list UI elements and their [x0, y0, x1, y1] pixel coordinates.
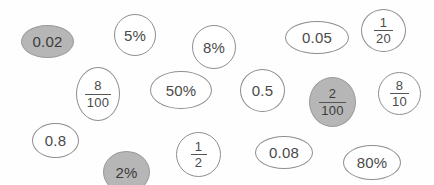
bubble-0-05-label: 0.05 — [302, 30, 332, 45]
bubble-8-percent-label: 8% — [203, 40, 225, 55]
bubble-2-over-100-denominator: 100 — [319, 103, 345, 117]
bubble-1-over-2-denominator: 2 — [193, 155, 204, 169]
bubble-1-over-2[interactable]: 12 — [176, 132, 221, 177]
bubble-0-02-label: 0.02 — [33, 34, 63, 49]
bubble-2-percent[interactable]: 2% — [103, 151, 150, 185]
bubble-1-over-20-denominator: 20 — [374, 31, 393, 45]
bubble-1-over-2-numerator: 1 — [193, 140, 204, 154]
bubble-8-over-10[interactable]: 810 — [378, 72, 421, 115]
bubble-80-percent-label: 80% — [357, 155, 388, 170]
bubble-0-02[interactable]: 0.02 — [21, 25, 74, 58]
bubble-0-8-label: 0.8 — [45, 133, 66, 148]
bubble-1-over-2-fraction: 12 — [191, 140, 207, 170]
bubble-0-8[interactable]: 0.8 — [32, 123, 79, 158]
bubble-5-percent-label: 5% — [124, 28, 146, 43]
bubble-8-over-10-denominator: 10 — [390, 94, 409, 108]
bubble-80-percent[interactable]: 80% — [343, 145, 401, 180]
bubble-8-over-100-fraction: 8100 — [85, 79, 111, 109]
bubble-0-05[interactable]: 0.05 — [285, 21, 349, 54]
bubble-8-over-10-numerator: 8 — [394, 79, 405, 93]
bubble-0-5[interactable]: 0.5 — [240, 69, 285, 112]
bubble-0-5-label: 0.5 — [252, 83, 273, 98]
bubble-8-percent[interactable]: 8% — [192, 25, 236, 69]
bubble-8-over-100[interactable]: 8100 — [76, 67, 120, 121]
bubble-1-over-20[interactable]: 120 — [361, 9, 406, 52]
bubble-5-percent[interactable]: 5% — [114, 14, 156, 56]
bubble-1-over-20-fraction: 120 — [374, 16, 393, 46]
bubble-8-over-100-denominator: 100 — [85, 95, 111, 109]
bubble-8-over-10-fraction: 810 — [390, 79, 409, 109]
bubble-2-over-100-fraction: 2100 — [319, 87, 345, 117]
bubble-2-over-100[interactable]: 2100 — [309, 77, 356, 127]
bubble-8-over-100-numerator: 8 — [92, 79, 103, 93]
bubble-50-percent-label: 50% — [166, 83, 197, 98]
bubble-2-percent-label: 2% — [115, 165, 137, 180]
bubble-sort-canvas: 0.025%8%0.05120810050%0.521008100.82%120… — [0, 0, 434, 185]
bubble-1-over-20-numerator: 1 — [378, 16, 389, 30]
bubble-0-08-label: 0.08 — [269, 145, 299, 160]
bubble-2-over-100-numerator: 2 — [327, 87, 338, 101]
bubble-0-08[interactable]: 0.08 — [255, 136, 313, 169]
bubble-50-percent[interactable]: 50% — [150, 71, 212, 109]
